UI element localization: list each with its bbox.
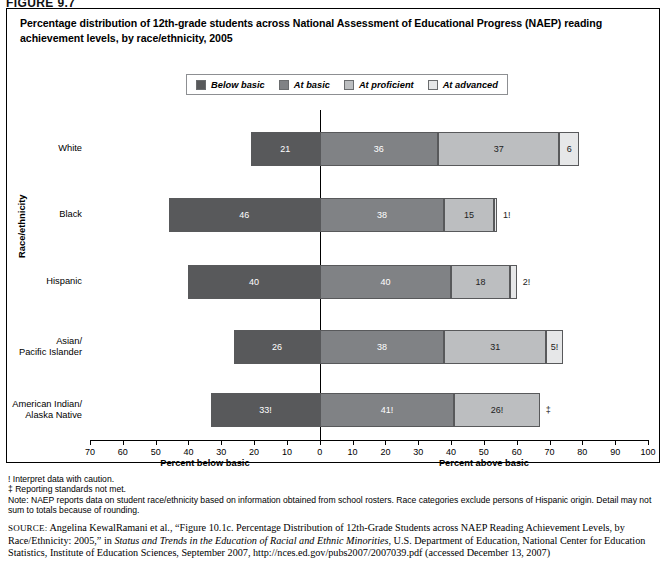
figure-notes: ! Interpret data with caution. ‡ Reporti… (8, 474, 660, 516)
category-label-1: Black (0, 209, 82, 220)
axis-tick (550, 440, 551, 445)
bar-segment-value: 36 (374, 144, 384, 154)
axis-tick (188, 440, 189, 445)
bar-segment-at-proficient: 15 (444, 198, 493, 232)
note-general: Note: NAEP reports data on student race/… (8, 495, 660, 516)
axis-tick-label: 10 (348, 447, 358, 457)
axis-tick-label: 50 (151, 447, 161, 457)
bar-segment-value: 21 (280, 144, 290, 154)
axis-tick (517, 440, 518, 445)
bar-segment-below-basic: 46 (169, 198, 320, 232)
x-axis-line (90, 440, 648, 441)
bar-segment-value: 26! (491, 405, 504, 415)
bar-row: 4638151! (90, 198, 648, 232)
bar-segment-at-basic: 36 (320, 132, 438, 166)
category-label-4: American Indian/Alaska Native (0, 399, 82, 421)
bar-segment-value: 41! (381, 405, 394, 415)
axis-tick (221, 440, 222, 445)
axis-tick (123, 440, 124, 445)
legend-item-at-basic: At basic (279, 80, 330, 90)
bar-segment-at-basic: 38 (320, 198, 445, 232)
legend-swatch-icon (344, 80, 354, 90)
category-label-line: American Indian/ (0, 399, 82, 410)
bar-segment-value: 38 (377, 342, 387, 352)
axis-tick (451, 440, 452, 445)
bar-segment-value: 33! (259, 405, 272, 415)
bar-segment-at-proficient: 18 (451, 265, 510, 299)
figure-page: FIGURE 9.7 Percentage distribution of 12… (0, 0, 666, 569)
bar-row: 2136376 (90, 132, 648, 166)
legend-label: Below basic (211, 80, 265, 90)
category-label-line: Pacific Islander (0, 347, 82, 358)
bar-segment-at-proficient: 26! (454, 393, 539, 427)
legend-label: At basic (294, 80, 330, 90)
axis-tick-label: 60 (118, 447, 128, 457)
axis-tick-label: 20 (249, 447, 259, 457)
bar-segment-below-basic: 26 (234, 330, 319, 364)
bar-segment-below-basic: 40 (188, 265, 319, 299)
category-label-line: Black (0, 209, 82, 220)
axis-tick-label: 20 (380, 447, 390, 457)
bar-segment-value: 26 (272, 342, 282, 352)
bar-segment-value: 18 (476, 277, 486, 287)
axis-tick-label: 100 (640, 447, 655, 457)
bar-segment-value: 31 (490, 342, 500, 352)
axis-tick-label: 60 (512, 447, 522, 457)
axis-tick-label: 30 (216, 447, 226, 457)
axis-tick-label: 40 (183, 447, 193, 457)
axis-tick (385, 440, 386, 445)
figure-source: SOURCE: Angelina KewalRamani et al., “Fi… (8, 522, 660, 560)
note-standards: ‡ Reporting standards not met. (8, 484, 660, 494)
category-label-3: Asian/Pacific Islander (0, 336, 82, 358)
bar-segment-value: 6 (567, 144, 572, 154)
x-axis-title-left: Percent below basic (160, 458, 249, 468)
bar-segment-at-basic: 41! (320, 393, 455, 427)
axis-tick (418, 440, 419, 445)
legend-label: At advanced (443, 80, 498, 90)
note-caution: ! Interpret data with caution. (8, 474, 660, 484)
bar-segment-at-advanced: 5! (546, 330, 562, 364)
axis-tick (254, 440, 255, 445)
legend-item-at-advanced: At advanced (428, 80, 498, 90)
x-axis-title-right: Percent above basic (439, 458, 529, 468)
axis-tick (287, 440, 288, 445)
bar-segment-at-advanced: 6 (559, 132, 579, 166)
category-label-line: Asian/ (0, 336, 82, 347)
legend-swatch-icon (279, 80, 289, 90)
axis-tick-label: 50 (479, 447, 489, 457)
axis-tick-label: 0 (317, 447, 322, 457)
source-label: SOURCE: (8, 523, 47, 533)
axis-tick (156, 440, 157, 445)
category-label-line: Hispanic (0, 276, 82, 287)
axis-tick-label: 40 (446, 447, 456, 457)
legend-swatch-icon (428, 80, 438, 90)
axis-tick (320, 440, 321, 445)
bar-segment-at-basic: 38 (320, 330, 445, 364)
category-label-line: White (0, 143, 82, 154)
legend-item-at-proficient: At proficient (344, 80, 414, 90)
legend-item-below-basic: Below basic (196, 80, 265, 90)
bar-segment-at-proficient: 31 (444, 330, 546, 364)
bar-segment-value: 40 (380, 277, 390, 287)
bar-segment-at-advanced (494, 198, 497, 232)
axis-tick-label: 80 (577, 447, 587, 457)
bar-segment-at-advanced (510, 265, 517, 299)
bar-segment-value-outside: 1! (503, 198, 511, 232)
bar-segment-value: 15 (464, 210, 474, 220)
bar-segment-below-basic: 21 (251, 132, 320, 166)
axis-tick (582, 440, 583, 445)
bar-row: 2638315! (90, 330, 648, 364)
plot-area: White2136376Black4638151!Hispanic4040182… (90, 110, 648, 440)
bar-row: 33!41!26!‡ (90, 393, 648, 427)
bar-segment-below-basic: 33! (211, 393, 319, 427)
axis-tick-label: 70 (85, 447, 95, 457)
legend-label: At proficient (359, 80, 414, 90)
category-label-0: White (0, 143, 82, 154)
axis-tick (90, 440, 91, 445)
axis-tick (615, 440, 616, 445)
source-publication-title: Status and Trends in the Education of Ra… (114, 535, 388, 546)
category-label-2: Hispanic (0, 276, 82, 287)
bar-segment-value: 5! (551, 342, 559, 352)
axis-tick-label: 70 (545, 447, 555, 457)
bar-row: 4040182! (90, 265, 648, 299)
